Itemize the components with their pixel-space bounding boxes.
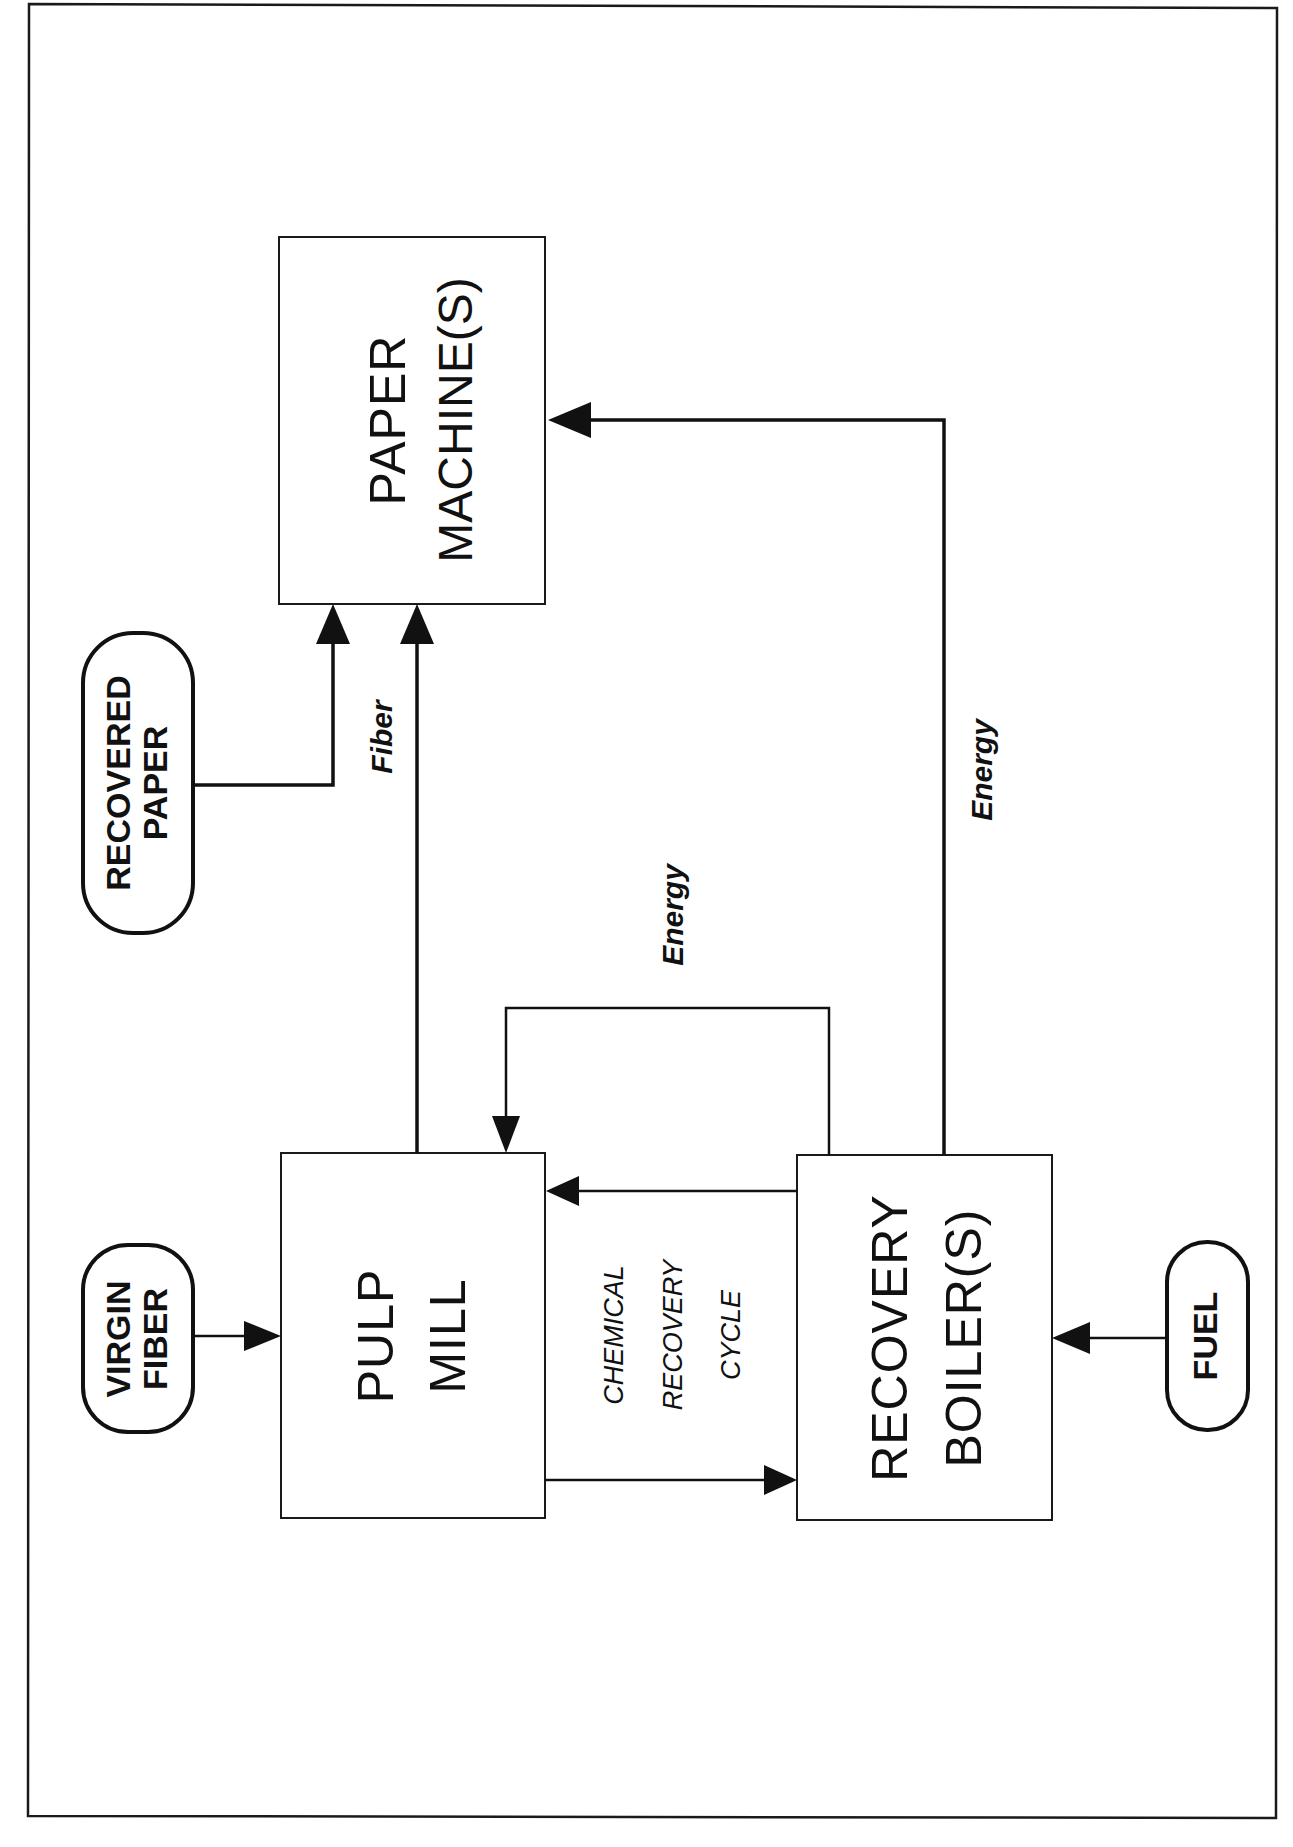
energy-to-paper-machine-connector (590, 420, 944, 1155)
arrowhead-up-icon (400, 604, 434, 644)
cycle-label-line2: RECOVERY (658, 1258, 688, 1411)
diagram-frame (28, 4, 1277, 1818)
chemical-recovery-cycle-label: CHEMICAL RECOVERY CYCLE (599, 1258, 746, 1411)
pulp-mill-label-line2: MILL (420, 1278, 476, 1393)
fuel-label: FUEL (1186, 1292, 1224, 1381)
arrowhead-up-icon (316, 604, 350, 644)
paper-machine-label-line1: PAPER (360, 335, 416, 506)
pulp-mill-node: PULP MILL (281, 1153, 545, 1518)
recovery-boiler-label-line2: BOILER(S) (936, 1208, 992, 1467)
cycle-label-line1: CHEMICAL (599, 1265, 629, 1405)
energy-to-pulp-mill-connector (506, 1008, 829, 1155)
pulp-mill-box (281, 1153, 545, 1518)
recovered-paper-label-line2: PAPER (136, 726, 174, 841)
recovery-boiler-node: RECOVERY BOILER(S) (797, 1155, 1052, 1520)
pulp-mill-label-line1: PULP (348, 1269, 404, 1404)
paper-machine-node: PAPER MACHINE(S) (279, 237, 545, 604)
arrowhead-right-icon (244, 1321, 281, 1351)
virgin-fiber-label-line1: VIRGIN (99, 1280, 137, 1397)
fuel-to-recovery-boiler-arrow (1052, 1322, 1167, 1354)
arrowhead-right-icon (764, 1465, 797, 1495)
energy-to-paper-machine-label: Energy (965, 718, 998, 821)
virgin-fiber-to-pulp-mill-arrow (193, 1321, 281, 1351)
recovered-paper-connector (193, 640, 333, 785)
fiber-flow-arrow: Fiber (365, 604, 434, 1153)
fuel-input: FUEL (1167, 1242, 1248, 1430)
chemical-return-arrow (546, 1176, 797, 1206)
process-flow-diagram: PAPER MACHINE(S) PULP MILL RECOVERY BOIL… (0, 0, 1293, 1847)
arrowhead-left-icon (548, 402, 591, 438)
recovery-boiler-label-line1: RECOVERY (862, 1194, 918, 1482)
cycle-label-line3: CYCLE (716, 1289, 746, 1380)
recovered-paper-label-line1: RECOVERED (99, 675, 137, 890)
energy-to-pulp-mill-label: Energy (656, 863, 689, 966)
arrowhead-left-icon (546, 1176, 579, 1206)
arrowhead-down-icon (492, 1116, 520, 1153)
recovery-boiler-box (797, 1155, 1052, 1520)
fiber-flow-label: Fiber (365, 698, 398, 774)
arrowhead-left-icon (1052, 1322, 1090, 1354)
paper-machine-label-line2: MACHINE(S) (429, 277, 482, 562)
energy-to-paper-machine-arrow: Energy (548, 402, 998, 1155)
virgin-fiber-input: VIRGIN FIBER (83, 1245, 193, 1432)
virgin-fiber-label-line2: FIBER (136, 1288, 174, 1390)
energy-to-pulp-mill-arrow: Energy (492, 863, 829, 1155)
chemical-feed-arrow (545, 1465, 797, 1495)
recovered-paper-input: RECOVERED PAPER (83, 633, 193, 933)
recovered-paper-to-paper-machine-arrow (193, 604, 350, 785)
